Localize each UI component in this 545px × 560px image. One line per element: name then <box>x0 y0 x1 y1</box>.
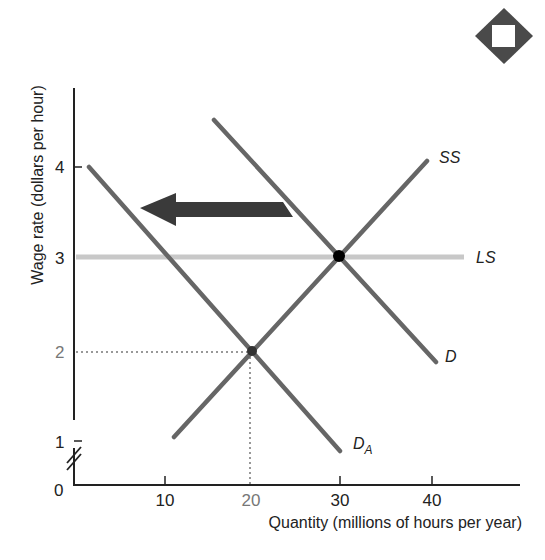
y-axis-title: Wage rate (dollars per hour) <box>29 85 46 285</box>
da-label: DA <box>353 435 373 457</box>
x-tick-40: 40 <box>423 491 442 510</box>
x-tick-30: 30 <box>331 491 350 510</box>
x-tick-10: 10 <box>156 491 175 510</box>
ss-label: SS <box>439 149 461 166</box>
shift-left-arrow <box>140 193 293 226</box>
equilibrium-point-new <box>247 346 257 356</box>
origin-label: 0 <box>54 481 63 500</box>
y-ticks <box>74 167 82 441</box>
y-tick-4: 4 <box>55 158 64 177</box>
y-tick-2: 2 <box>55 343 64 362</box>
y-tick-3: 3 <box>55 249 64 268</box>
chart: 4 3 2 1 0 10 20 30 40 Quantity (millions… <box>0 0 545 560</box>
ls-label: LS <box>476 249 496 266</box>
diamond-square-icon <box>475 8 533 64</box>
d-curve <box>214 120 436 362</box>
x-axis-title: Quantity (millions of hours per year) <box>269 514 522 531</box>
y-tick-1: 1 <box>55 433 64 452</box>
x-tick-20: 20 <box>242 491 261 510</box>
x-ticks <box>165 476 432 485</box>
d-label: D <box>445 348 457 365</box>
equilibrium-point-initial <box>333 250 345 262</box>
